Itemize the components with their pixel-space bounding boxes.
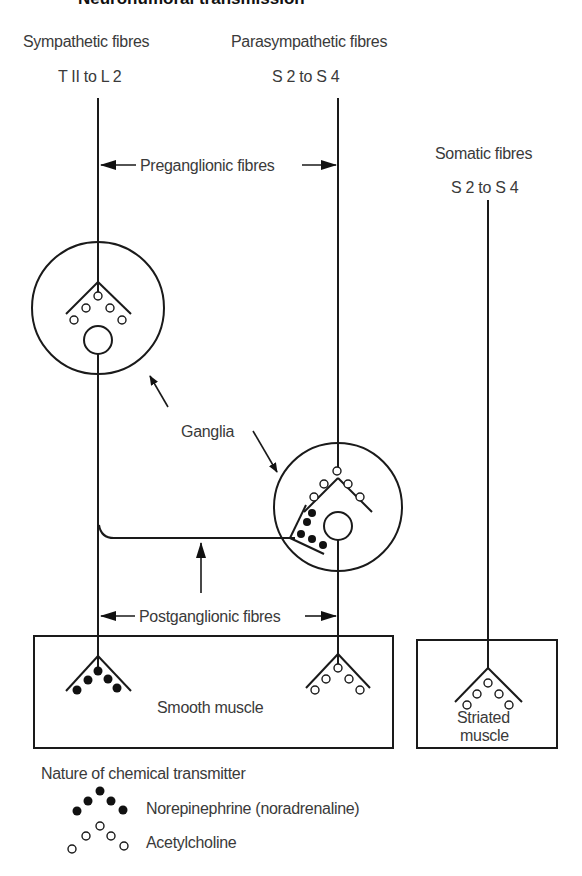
legend: Nature of chemical transmitter Norepinep… [41,765,359,853]
somatic-range: S 2 to S 4 [451,179,519,196]
postganglionic-annotation: Postganglionic fibres [101,608,336,625]
acetylcholine-vesicles [463,679,513,709]
acetylcholine-vesicles [70,292,126,324]
legend-label-acetylcholine: Acetylcholine [146,834,237,851]
striated-muscle-label-line2: muscle [460,727,509,744]
norepinephrine-dots-icon [73,787,128,816]
ganglia-annotation: Ganglia [150,376,277,472]
preganglionic-annotation: Preganglionic fibres [101,157,336,174]
sympathetic-range: T II to L 2 [58,68,122,85]
sympathetic-label: Sympathetic fibres [23,33,150,50]
smooth-muscle-label: Smooth muscle [157,699,264,716]
somatic-label: Somatic fibres [435,145,532,162]
ganglia-label: Ganglia [181,423,234,440]
preganglionic-label: Preganglionic fibres [140,157,275,174]
legend-item-acetylcholine: Acetylcholine [68,822,237,853]
striated-muscle-label-line1: Striated [457,709,510,726]
acetylcholine-vesicles [311,664,364,694]
parasympathetic-range: S 2 to S 4 [272,68,340,85]
autonomic-diagram: Neurohumoral transmission Sympathetic fi… [0,0,582,876]
acetylcholine-vesicles [310,467,364,501]
legend-item-norepinephrine: Norepinephrine (noradrenaline) [73,787,360,818]
legend-heading: Nature of chemical transmitter [41,765,246,782]
diagram-title: Neurohumoral transmission [78,0,305,8]
parasympathetic-label: Parasympathetic fibres [231,33,387,50]
smooth-muscle-box: Smooth muscle [34,636,393,748]
ganglion-cell-body [84,326,112,354]
legend-label-norepinephrine: Norepinephrine (noradrenaline) [146,800,359,817]
postganglionic-label: Postganglionic fibres [139,608,281,625]
acetylcholine-dots-icon [68,822,128,853]
ganglion-cell-body [324,512,352,540]
norepinephrine-vesicles [73,667,122,695]
